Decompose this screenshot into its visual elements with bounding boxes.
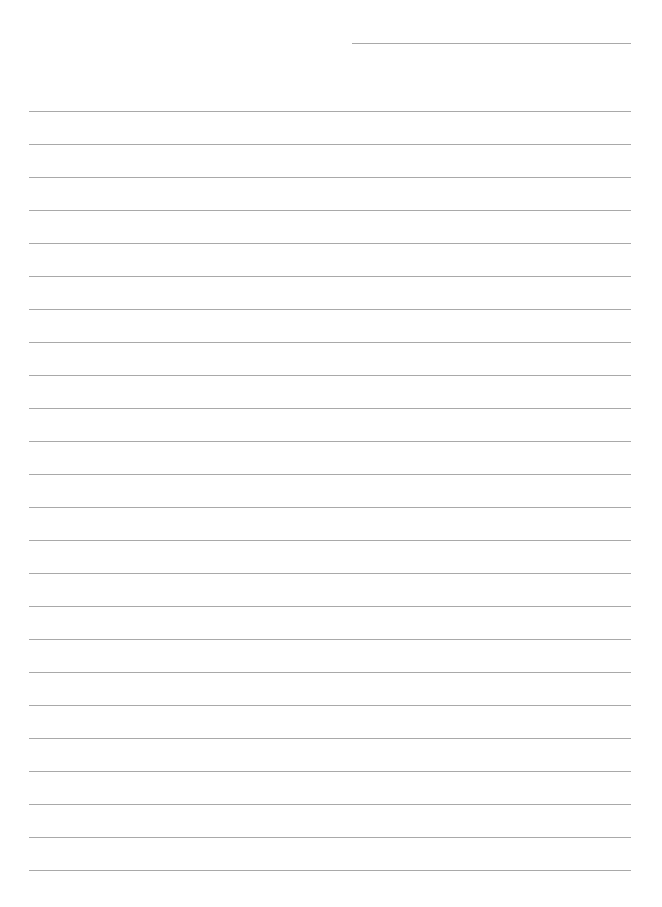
ruled-line	[29, 705, 631, 706]
ruled-line	[29, 606, 631, 607]
ruled-line	[29, 474, 631, 475]
header-line	[352, 43, 631, 44]
ruled-line	[29, 672, 631, 673]
ruled-line	[29, 243, 631, 244]
ruled-line	[29, 771, 631, 772]
ruled-line	[29, 177, 631, 178]
ruled-line	[29, 342, 631, 343]
ruled-line	[29, 144, 631, 145]
ruled-line	[29, 375, 631, 376]
ruled-line	[29, 441, 631, 442]
lined-paper-page	[0, 0, 662, 907]
ruled-line	[29, 573, 631, 574]
ruled-line	[29, 540, 631, 541]
ruled-line	[29, 408, 631, 409]
ruled-line	[29, 639, 631, 640]
ruled-line	[29, 738, 631, 739]
ruled-line	[29, 276, 631, 277]
ruled-line	[29, 804, 631, 805]
ruled-line	[29, 870, 631, 871]
ruled-line	[29, 210, 631, 211]
ruled-line	[29, 507, 631, 508]
ruled-line	[29, 111, 631, 112]
ruled-line	[29, 309, 631, 310]
ruled-line	[29, 837, 631, 838]
